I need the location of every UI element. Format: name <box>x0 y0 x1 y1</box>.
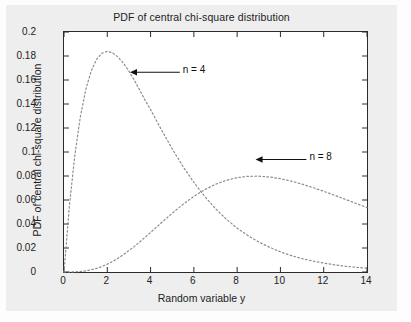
chart-title: PDF of central chi-square distribution <box>6 11 397 23</box>
x-tick-label: 12 <box>317 275 328 286</box>
y-tick-label: 0.08 <box>17 170 36 181</box>
x-tick-label: 2 <box>104 275 110 286</box>
x-axis-label: Random variable y <box>6 292 397 304</box>
x-tick-label: 14 <box>360 275 371 286</box>
y-tick-label: 0.2 <box>22 26 36 37</box>
y-tick-label: 0.16 <box>17 74 36 85</box>
annotation-label: n = 8 <box>309 151 332 162</box>
y-tick-label: 0.04 <box>17 218 36 229</box>
x-tick-label: 6 <box>190 275 196 286</box>
x-tick-label: 0 <box>60 275 66 286</box>
annotation-label: n = 4 <box>183 64 206 75</box>
x-tick-label: 10 <box>274 275 285 286</box>
y-tick-label: 0.12 <box>17 122 36 133</box>
x-tick-label: 8 <box>233 275 239 286</box>
y-tick-label: 0 <box>30 266 36 277</box>
annotation-arrows <box>130 69 306 163</box>
x-tick-label: 4 <box>147 275 153 286</box>
y-tick-label: 0.06 <box>17 194 36 205</box>
figure-panel: PDF of central chi-square distribution R… <box>6 5 397 311</box>
y-tick-label: 0.02 <box>17 242 36 253</box>
y-tick-label: 0.18 <box>17 50 36 61</box>
y-tick-label: 0.14 <box>17 98 36 109</box>
y-tick-label: 0.1 <box>22 146 36 157</box>
